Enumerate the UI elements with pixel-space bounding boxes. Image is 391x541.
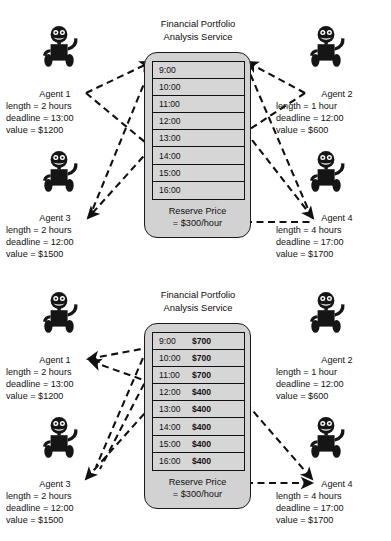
reserve-price-bottom: Reserve Price = $300/hour [144,476,251,501]
slot-time: 11:00 [153,99,187,109]
arrow-slot-to-agent3 [90,64,152,216]
robot-icon-agent3-top [38,150,86,196]
robot-icon-agent2-top [305,25,353,71]
reserve-price-top: Reserve Price = $300/hour [144,205,251,230]
agent-block-2-top: Agent 2 length = 1 hour deadline = 12:00… [270,88,390,136]
slot-time: 16:00 [153,185,187,195]
slot-row[interactable]: 14:00 [153,147,244,164]
slot-price: $700 [187,353,211,363]
slot-price: $700 [187,370,211,380]
agent-name: Agent 1 [4,354,124,366]
agent-deadline: deadline = 13:00 [4,378,124,390]
slot-row[interactable]: 10:00$700 [153,350,244,367]
slot-row[interactable]: 14:00$400 [153,418,244,435]
agent-block-3-bottom: Agent 3 length = 2 hours deadline = 12:0… [4,478,124,526]
agent-value: value = $1700 [270,248,390,260]
reserve-price-label: Reserve Price [144,205,251,217]
agent-length: length = 2 hours [4,490,124,502]
slot-price: $400 [187,456,211,466]
agent-length: length = 2 hours [4,100,124,112]
agent-name: Agent 2 [270,354,390,366]
slot-row[interactable]: 11:00 [153,96,244,113]
agent-name: Agent 2 [270,88,390,100]
slot-time: 16:00 [153,456,187,466]
slot-row[interactable]: 12:00 [153,113,244,130]
agent-block-2-bottom: Agent 2 length = 1 hour deadline = 12:00… [270,354,390,402]
slot-row[interactable]: 9:00 [153,62,244,79]
arrow-slot12-to-agent4 [246,403,312,479]
slot-price: $400 [187,404,211,414]
agent-block-4-top: Agent 4 length = 4 hours deadline = 17:0… [270,212,390,260]
panel-top: Financial Portfolio Analysis Service 9:0… [0,0,391,270]
slot-time: 15:00 [153,439,187,449]
slot-time: 9:00 [153,65,187,75]
slot-row[interactable]: 15:00$400 [153,436,244,453]
slot-time: 11:00 [153,370,187,380]
agent-name: Agent 4 [270,478,390,490]
robot-icon-agent2-bottom [305,291,353,337]
slot-row[interactable]: 13:00 [153,130,244,147]
service-title-line1: Financial Portfolio [124,18,272,31]
arrow-slot-to-agent4 [246,64,311,216]
agent-name: Agent 3 [4,212,124,224]
service-title-line2: Analysis Service [124,302,272,315]
agent-length: length = 4 hours [270,224,390,236]
agent-deadline: deadline = 12:00 [4,502,124,514]
panel-bottom: Financial Portfolio Analysis Service 9:0… [0,271,391,541]
agent-length: length = 1 hour [270,366,390,378]
agent-name: Agent 1 [4,88,124,100]
slot-time: 14:00 [153,422,187,432]
service-title-bottom: Financial Portfolio Analysis Service [124,289,272,314]
agent-deadline: deadline = 12:00 [270,378,390,390]
slot-time: 10:00 [153,82,187,92]
agent-length: length = 2 hours [4,224,124,236]
slot-row[interactable]: 9:00$700 [153,333,244,350]
agent-value: value = $600 [270,124,390,136]
slot-price: $400 [187,387,211,397]
robot-icon-agent1-bottom [38,291,86,337]
agent-block-3-top: Agent 3 length = 2 hours deadline = 12:0… [4,212,124,260]
agent-length: length = 1 hour [270,100,390,112]
agent-block-1-top: Agent 1 length = 2 hours deadline = 13:0… [4,88,124,136]
slot-time: 14:00 [153,151,187,161]
slot-table-bottom: 9:00$70010:00$70011:00$70012:00$40013:00… [152,332,245,471]
service-title-top: Financial Portfolio Analysis Service [124,18,272,43]
agent-block-4-bottom: Agent 4 length = 4 hours deadline = 17:0… [270,478,390,526]
reserve-price-label: Reserve Price [144,476,251,488]
slot-row[interactable]: 16:00$400 [153,453,244,470]
slot-row[interactable]: 15:00 [153,165,244,182]
agent-value: value = $1500 [4,248,124,260]
agent-block-1-bottom: Agent 1 length = 2 hours deadline = 13:0… [4,354,124,402]
robot-icon-agent1-top [38,25,86,71]
slot-row[interactable]: 12:00$400 [153,384,244,401]
slot-time: 10:00 [153,353,187,363]
agent-length: length = 4 hours [270,490,390,502]
agent-name: Agent 3 [4,478,124,490]
slot-price: $400 [187,422,211,432]
slot-time: 13:00 [153,404,187,414]
slot-time: 9:00 [153,336,187,346]
agent-value: value = $1500 [4,514,124,526]
slot-time: 13:00 [153,133,187,143]
service-title-line2: Analysis Service [124,31,272,44]
reserve-price-value: = $300/hour [144,217,251,229]
slot-time: 12:00 [153,116,187,126]
robot-icon-agent4-bottom [305,416,353,462]
agent-value: value = $1700 [270,514,390,526]
arrow-agent4-to-slot [245,131,313,218]
agent-deadline: deadline = 13:00 [4,112,124,124]
slot-row[interactable]: 11:00$700 [153,367,244,384]
robot-icon-agent4-top [305,150,353,196]
service-title-line1: Financial Portfolio [124,289,272,302]
slot-time: 15:00 [153,168,187,178]
reserve-price-value: = $300/hour [144,488,251,500]
robot-icon-agent3-bottom [38,416,86,462]
agent-value: value = $1200 [4,390,124,402]
agent-name: Agent 4 [270,212,390,224]
agent-length: length = 2 hours [4,366,124,378]
slot-price: $700 [187,336,211,346]
slot-row[interactable]: 16:00 [153,182,244,199]
agent-deadline: deadline = 12:00 [4,236,124,248]
slot-row[interactable]: 13:00$400 [153,401,244,418]
slot-row[interactable]: 10:00 [153,79,244,96]
